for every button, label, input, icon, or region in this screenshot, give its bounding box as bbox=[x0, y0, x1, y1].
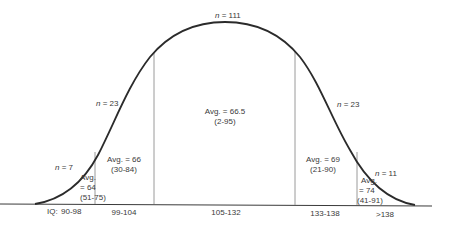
n-label-segment-3: n = 111 bbox=[215, 11, 241, 21]
iq-axis-prefix: IQ: bbox=[47, 207, 58, 217]
avg-value: = 64 bbox=[80, 183, 96, 193]
n-value: = 23 bbox=[344, 100, 360, 109]
iq-range-label-2: 99-104 bbox=[112, 208, 137, 218]
n-variable: n bbox=[337, 100, 341, 109]
n-value: = 11 bbox=[382, 169, 397, 178]
iq-range-label-5: >138 bbox=[376, 210, 394, 220]
n-label-segment-2: n = 23 bbox=[96, 99, 118, 109]
avg-label: Avg. bbox=[80, 173, 96, 183]
n-label-segment-1: n = 7 bbox=[55, 163, 73, 173]
n-variable: n bbox=[55, 163, 59, 172]
iq-range-label-1: 90-98 bbox=[61, 207, 81, 217]
avg-range: (2-95) bbox=[214, 117, 235, 127]
iq-range-label-3: 105-132 bbox=[211, 208, 240, 218]
avg-label: Avg. = 69 bbox=[306, 155, 340, 165]
n-value: = 23 bbox=[103, 99, 119, 108]
avg-label: Avg. = 66.5 bbox=[205, 107, 246, 117]
avg-range: (30-84) bbox=[111, 165, 137, 175]
segment-3-average: Avg. = 66.5 (2-95) bbox=[205, 107, 246, 127]
n-value: = 111 bbox=[222, 11, 241, 20]
avg-range: (21-90) bbox=[310, 165, 336, 175]
avg-label: Avg. = 66 bbox=[107, 155, 141, 165]
segment-5-average: Avg. = 74 (41-91) bbox=[356, 176, 383, 206]
avg-range: (51-75) bbox=[80, 193, 106, 203]
iq-range-label-4: 133-138 bbox=[310, 209, 339, 219]
n-variable: n bbox=[96, 99, 100, 108]
bell-curve-diagram: n = 7 n = 23 n = 111 n = 23 n = 11 Avg. … bbox=[0, 0, 450, 227]
segment-2-average: Avg. = 66 (30-84) bbox=[107, 155, 141, 175]
segment-1-average: Avg. = 64 (51-75) bbox=[80, 173, 106, 203]
segment-4-average: Avg. = 69 (21-90) bbox=[306, 155, 340, 175]
avg-label: Avg. bbox=[356, 176, 377, 186]
n-label-segment-4: n = 23 bbox=[337, 100, 359, 110]
avg-range: (41-91) bbox=[356, 196, 383, 206]
n-variable: n bbox=[215, 11, 219, 20]
n-value: = 7 bbox=[62, 163, 73, 172]
avg-value: = 74 bbox=[356, 186, 375, 196]
